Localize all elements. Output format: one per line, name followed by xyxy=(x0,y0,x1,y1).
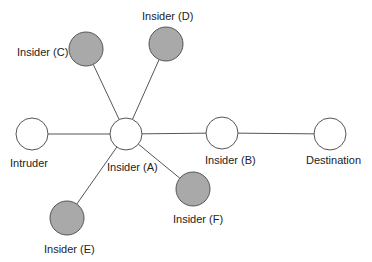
node-insider-f xyxy=(176,172,210,206)
node-insider-d xyxy=(149,27,183,61)
edge-insider-a-insider-e xyxy=(77,147,117,204)
edge-insider-b-destination xyxy=(238,133,314,134)
edge-insider-a-insider-d xyxy=(132,60,159,120)
label-insider-a: Insider (A) xyxy=(107,161,158,173)
node-insider-c xyxy=(69,32,103,66)
label-insider-f: Insider (F) xyxy=(173,213,223,225)
node-insider-e xyxy=(50,201,84,235)
label-destination: Destination xyxy=(306,154,361,166)
nodes xyxy=(16,27,346,235)
label-insider-c: Insider (C) xyxy=(17,46,68,58)
node-insider-a xyxy=(110,118,142,150)
label-insider-b: Insider (B) xyxy=(205,154,256,166)
label-insider-d: Insider (D) xyxy=(142,10,193,22)
network-diagram: IntruderInsider (A)Insider (B)Destinatio… xyxy=(0,0,372,262)
label-insider-e: Insider (E) xyxy=(44,243,95,255)
node-intruder xyxy=(16,118,48,150)
node-insider-b xyxy=(206,117,238,149)
label-intruder: Intruder xyxy=(10,157,48,169)
edge-insider-a-insider-b xyxy=(142,133,206,134)
node-destination xyxy=(314,118,346,150)
edge-insider-a-insider-c xyxy=(93,64,119,119)
